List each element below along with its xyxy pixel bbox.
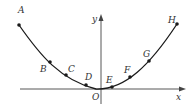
- origin-label: O: [92, 92, 100, 102]
- point-label-d: D: [84, 72, 92, 82]
- parabola-diagram: ABCDEFGH x y O: [0, 0, 193, 106]
- point-label-c: C: [68, 64, 75, 74]
- y-axis-arrow-icon: [99, 14, 104, 21]
- y-axis: [99, 14, 104, 104]
- point-label-e: E: [105, 75, 113, 85]
- x-axis-label: x: [176, 92, 181, 102]
- point-label-a: A: [17, 5, 25, 15]
- point-label-g: G: [143, 49, 150, 59]
- point-e: [110, 85, 114, 89]
- point-a: [17, 23, 21, 27]
- point-g: [147, 59, 151, 63]
- x-axis-arrow-icon: [179, 87, 186, 92]
- point-d: [84, 83, 88, 87]
- y-axis-label: y: [91, 14, 98, 24]
- point-label-f: F: [123, 65, 131, 75]
- point-label-h: H: [167, 15, 176, 25]
- parabola-curve: [19, 24, 177, 89]
- point-label-b: B: [39, 64, 47, 74]
- point-f: [128, 75, 132, 79]
- point-b: [48, 60, 52, 64]
